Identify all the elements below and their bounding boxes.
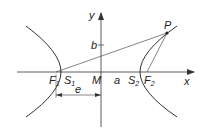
a-label: a bbox=[114, 74, 120, 86]
f1-label: F1 bbox=[49, 74, 60, 87]
b-label: b bbox=[91, 39, 97, 51]
s1-label: S1 bbox=[64, 74, 75, 87]
point-p-label: P bbox=[164, 19, 172, 31]
y-axis-label: y bbox=[88, 9, 96, 21]
line-f1-p bbox=[56, 33, 167, 72]
hyperbola-left-branch bbox=[26, 26, 61, 117]
hyperbola-right-branch bbox=[140, 26, 177, 117]
s2-label: S2 bbox=[128, 74, 139, 87]
origin-label: M bbox=[92, 74, 102, 86]
point-p bbox=[165, 31, 168, 34]
hyperbola-diagram: y x b P F1 S1 M a S2 F2 e bbox=[0, 0, 204, 132]
x-axis-label: x bbox=[183, 75, 190, 87]
e-label: e bbox=[75, 83, 81, 95]
f2-label: F2 bbox=[144, 74, 155, 87]
